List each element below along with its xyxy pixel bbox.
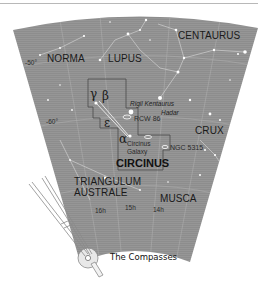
label-rcw86: RCW 86 <box>134 115 160 122</box>
label-australe: AUSTRALE <box>74 188 128 198</box>
label-centaurus: CENTAURUS <box>178 31 240 41</box>
label-lupus: LUPUS <box>108 54 142 64</box>
label-hadar: Hadar <box>161 110 179 117</box>
label-circinus: CIRCINUS <box>116 158 169 169</box>
label-crux: CRUX <box>195 126 224 136</box>
label-norma: NORMA <box>47 54 85 64</box>
label-circinus-galaxy-1: Circinus <box>127 141 150 148</box>
label-alpha: α <box>119 133 127 145</box>
illustration-caption: The Compasses <box>110 253 177 262</box>
label-gamma: γ <box>90 88 97 100</box>
label-rigil-kentaurus: Rigil Kentaurus <box>130 101 174 108</box>
label-ra-15h: 15h <box>125 205 136 212</box>
label-ngc5315: NGC 5315 <box>170 144 203 151</box>
label-epsilon: ε <box>104 117 110 129</box>
label-dec-50: -50° <box>25 60 37 67</box>
label-musca: MUSCA <box>160 194 197 204</box>
label-ra-14h: 14h <box>153 207 164 214</box>
label-circinus-galaxy-2: Galaxy <box>127 149 147 156</box>
label-ra-16h: 16h <box>95 208 106 215</box>
label-triangulum: TRIANGULUM <box>74 177 141 187</box>
label-dec-60: -60° <box>46 119 58 126</box>
label-beta: β <box>102 90 109 102</box>
